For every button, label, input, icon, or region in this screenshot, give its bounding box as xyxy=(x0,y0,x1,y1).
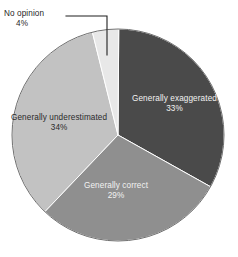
pie-chart-svg xyxy=(0,0,238,257)
pie-chart: Generally exaggerated 33% Generally corr… xyxy=(0,0,238,257)
pie-slices xyxy=(12,29,224,241)
